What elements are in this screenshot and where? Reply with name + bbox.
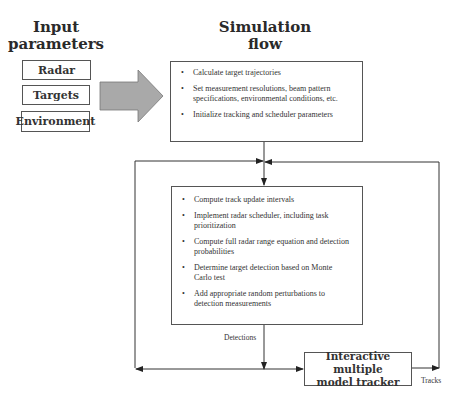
setup-item: Set measurement resolutions, beam patter… <box>193 84 352 104</box>
loop-item: Add appropriate random perturbations to … <box>194 289 352 309</box>
loop-item: Implement radar scheduler, including tas… <box>194 211 352 231</box>
loop-item: Compute full radar range equation and de… <box>194 237 352 257</box>
setup-box: Calculate target trajectories Set measur… <box>170 61 363 142</box>
setup-item: Calculate target trajectories <box>193 68 352 78</box>
detections-label: Detections <box>224 333 256 342</box>
setup-item: Initialize tracking and scheduler parame… <box>193 110 352 120</box>
imm-tracker-box: Interactive multiple model tracker <box>304 352 412 386</box>
loop-list: Compute track update intervals Implement… <box>172 187 362 309</box>
tracks-label: Tracks <box>421 376 441 385</box>
loop-item: Compute track update intervals <box>194 195 352 205</box>
loop-item: Determine target detection based on Mont… <box>194 263 352 283</box>
setup-list: Calculate target trajectories Set measur… <box>171 68 362 120</box>
tracker-label-line: model tracker <box>305 376 411 389</box>
loop-box: Compute track update intervals Implement… <box>171 186 363 325</box>
tracker-label-line: Interactive multiple <box>305 350 411 376</box>
big-input-arrow <box>100 70 163 122</box>
